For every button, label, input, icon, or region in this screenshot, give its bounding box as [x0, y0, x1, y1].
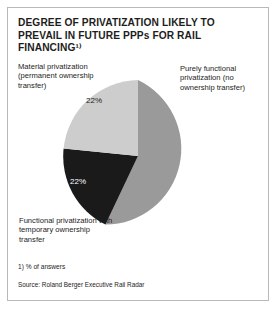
chart-footnote: 1) % of answers	[18, 263, 65, 271]
callout-functional-privatization: Functional privatization with temporary …	[19, 216, 115, 244]
pie-value-label-purely-functional: 57%	[188, 163, 204, 172]
pie-chart-svg	[62, 80, 214, 232]
callout-material-privatization: Material privatization (permanent owners…	[18, 62, 122, 90]
callout-purely-functional-privatization: Purely functional privatization (no owne…	[180, 64, 264, 92]
chart-source: Source: Roland Berger Executive Rail Rad…	[18, 281, 144, 289]
pie-value-label-functional-temporary: 22%	[70, 177, 86, 186]
pie-value-label-material: 22%	[86, 96, 102, 105]
pie-slice-material[interactable]	[64, 80, 138, 156]
chart-page: DEGREE OF PRIVATIZATION LIKELY TO PREVAI…	[0, 0, 278, 310]
